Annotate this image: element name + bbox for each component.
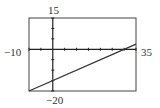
plot-frame: [29, 18, 136, 91]
graph-line: [29, 44, 136, 91]
graph-window: [0, 0, 160, 108]
